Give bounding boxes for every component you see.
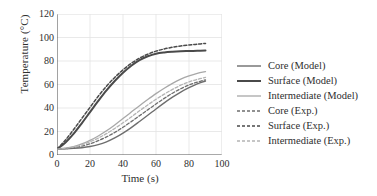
series-line: [57, 81, 206, 149]
x-tick-label: 60: [141, 159, 171, 169]
x-tick-label: 100: [207, 159, 237, 169]
legend-line-icon: [236, 60, 262, 72]
legend-label: Intermediate (Exp.): [268, 135, 350, 147]
legend-item[interactable]: Surface (Exp.): [236, 118, 377, 133]
y-tick-label: 100: [24, 33, 54, 43]
y-tick-label: 60: [24, 80, 54, 90]
legend-label: Core (Model): [268, 60, 325, 72]
legend-line-icon: [236, 75, 262, 87]
x-tick-label: 40: [108, 159, 138, 169]
legend-label: Core (Exp.): [268, 105, 318, 117]
legend-item[interactable]: Core (Model): [236, 58, 377, 73]
x-axis-title: Time (s): [57, 172, 223, 184]
series-line: [57, 43, 206, 149]
plot-area: [57, 14, 222, 155]
y-tick-label: 20: [24, 127, 54, 137]
y-tick-label: 80: [24, 56, 54, 66]
legend-line-icon: [236, 90, 262, 102]
plot-svg: [57, 14, 222, 155]
legend-item[interactable]: Intermediate (Exp.): [236, 133, 377, 148]
series-line: [57, 72, 206, 150]
legend-item[interactable]: Intermediate (Model): [236, 88, 377, 103]
legend-label: Surface (Exp.): [268, 120, 329, 132]
series-group: [57, 43, 206, 149]
series-line: [57, 51, 206, 150]
y-tick-label: 40: [24, 103, 54, 113]
x-tick-label: 0: [42, 159, 72, 169]
legend-item[interactable]: Surface (Model): [236, 73, 377, 88]
y-tick-label: 120: [24, 9, 54, 19]
legend-label: Intermediate (Model): [268, 90, 358, 102]
chart-figure: Temperature (°C) 020406080100120 0204060…: [0, 0, 377, 196]
x-tick-label: 80: [174, 159, 204, 169]
legend-label: Surface (Model): [268, 75, 337, 87]
x-tick-label: 20: [75, 159, 105, 169]
legend-line-icon: [236, 135, 262, 147]
x-axis-tick-labels: 020406080100: [0, 159, 377, 173]
chart-legend: Core (Model)Surface (Model)Intermediate …: [236, 58, 377, 148]
legend-item[interactable]: Core (Exp.): [236, 103, 377, 118]
legend-line-icon: [236, 105, 262, 117]
legend-line-icon: [236, 120, 262, 132]
